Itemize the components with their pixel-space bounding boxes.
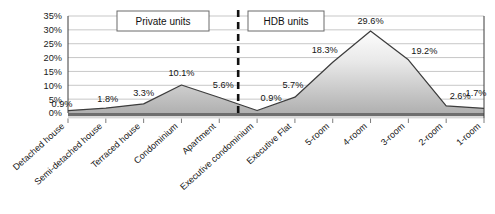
legend-hdb-units: HDB units [248,11,324,31]
y-axis-tick-label: 20% [44,53,62,63]
data-point-label: 5.6% [213,80,234,90]
legend-private-label: Private units [135,16,190,27]
data-point-label: 19.2% [411,46,437,56]
x-axis-category-label: 1-room [454,121,482,148]
x-axis-category-labels: Detached houseSemi-detached houseTerrace… [11,121,482,192]
data-point-label: 29.6% [358,16,384,26]
y-axis-tick-label: 15% [44,67,62,77]
y-axis-tick-label: 25% [44,39,62,49]
data-point-label: 10.1% [168,68,194,78]
data-point-label: 0.9% [52,99,73,109]
axis-band-bottom [68,116,484,118]
axis-band-top [68,113,484,116]
legend-private-units: Private units [117,11,209,31]
y-axis-tick-label: 10% [44,81,62,91]
data-point-label: 3.3% [133,88,154,98]
data-point-label: 18.3% [312,45,338,55]
x-axis-tick-marks [68,118,484,123]
x-axis-category-label: 4-room [341,121,369,148]
x-axis-category-label: Semi-detached house [32,121,104,187]
x-axis-category-label: 2-room [417,121,445,148]
y-axis-tick-label: 30% [44,25,62,35]
area-chart: 0%5%10%15%20%25%30%35% 0.9%1.8%3.3%10.1%… [0,0,495,214]
data-point-label: 5.7% [282,80,303,90]
x-axis-category-label: Apartment [180,121,218,157]
data-point-label: 0.9% [261,93,282,103]
x-axis-category-label: Executive condominium [178,121,255,192]
x-axis-category-label: 5-room [303,121,331,148]
legend-hdb-label: HDB units [263,16,308,27]
y-axis-tick-label: 35% [44,11,62,21]
data-point-label: 1.8% [97,94,118,104]
x-axis-category-label: 3-room [379,121,407,148]
y-axis-tick-label: 0% [49,108,62,118]
data-point-label: 1.7% [466,88,487,98]
chart-canvas: 0%5%10%15%20%25%30%35% 0.9%1.8%3.3%10.1%… [0,0,495,214]
